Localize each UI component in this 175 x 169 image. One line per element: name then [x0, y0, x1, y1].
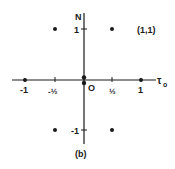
figure-caption: (b) [75, 149, 87, 159]
x-tick-label-neg1: -1 [20, 85, 28, 95]
x-tick-label-neg-half: -½ [48, 87, 58, 96]
lattice-point [110, 27, 114, 31]
origin-point-lower [82, 81, 86, 85]
lattice-point [53, 128, 57, 132]
x-axis-label: τ [157, 75, 162, 86]
x-tick-label-1: 1 [138, 85, 143, 95]
lattice-point [139, 78, 143, 82]
lattice-point [53, 27, 57, 31]
point-annotation: (1,1) [137, 25, 156, 35]
lattice-point [23, 78, 27, 82]
y-tick-label-neg1: -1 [71, 126, 79, 136]
x-tick-label-half: ½ [109, 87, 116, 96]
lattice-diagram: N 1 -1 (1,1) -1 -½ ½ 1 O τ o (b) [0, 0, 175, 169]
origin-label: O [88, 83, 95, 93]
y-axis-label: N [75, 12, 82, 22]
x-axis-subscript: o [163, 81, 167, 88]
origin-point-upper [82, 75, 86, 79]
lattice-point [110, 128, 114, 132]
y-tick-label-1: 1 [74, 25, 79, 35]
